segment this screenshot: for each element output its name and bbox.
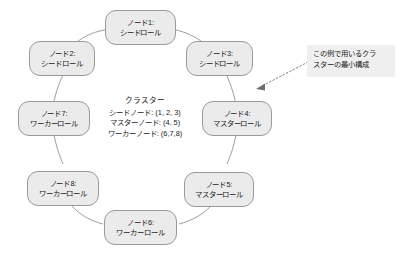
cluster-summary-master-line: マスターノード: (4, 5) [90, 118, 200, 129]
node-node5-role: マスターロール [195, 190, 244, 200]
cluster-summary: クラスター シードノード: (1, 2, 3) マスターノード: (4, 5) … [90, 95, 200, 139]
node-node7-role: ワーカーロール [30, 119, 79, 129]
cluster-summary-title: クラスター [90, 95, 200, 106]
node-node1[interactable]: ノード1: シードロール [105, 10, 176, 45]
node-node6[interactable]: ノード6: ワーカーロール [104, 210, 177, 245]
node-node2[interactable]: ノード2: シードロール [29, 41, 95, 76]
cluster-summary-worker-line: ワーカーノード: (6,7,8) [90, 129, 200, 140]
node-node2-role: シードロール [41, 59, 83, 69]
node-node3-role: シードロール [199, 59, 241, 69]
node-node5[interactable]: ノード5: マスターロール [184, 172, 254, 207]
edge-node2-node7 [54, 75, 63, 101]
node-node1-name: ノード1: [127, 18, 154, 28]
node-node4-role: マスターロール [213, 119, 262, 129]
edge-node3-node4 [227, 76, 236, 104]
node-node2-name: ノード2: [49, 49, 76, 59]
node-node4[interactable]: ノード4: マスターロール [202, 101, 272, 136]
edge-node5-node6 [179, 207, 210, 224]
callout-line-1: この例で用いるクラ [313, 49, 390, 60]
node-node1-role: シードロール [120, 28, 162, 38]
node-node7[interactable]: ノード7: ワーカーロール [18, 101, 90, 136]
node-node8-name: ノード8: [50, 179, 77, 189]
edge-node8-node6 [72, 206, 103, 224]
node-node8-role: ワーカーロール [39, 189, 88, 199]
diagram-canvas: ノード1: シードロール ノード2: シードロール ノード3: シードロール ノ… [0, 0, 401, 262]
edge-node7-node8 [54, 135, 63, 164]
cluster-summary-seed-line: シードノード: (1, 2, 3) [90, 108, 200, 119]
edge-node4-node5 [227, 135, 236, 164]
node-node8[interactable]: ノード8: ワーカーロール [27, 171, 99, 206]
callout-box: この例で用いるクラ スターの最小構成 [307, 45, 395, 77]
node-node4-name: ノード4: [224, 109, 251, 119]
node-node3-name: ノード3: [206, 49, 233, 59]
node-node5-name: ノード5: [206, 180, 233, 190]
node-node6-role: ワーカーロール [116, 228, 165, 238]
node-node3[interactable]: ノード3: シードロール [186, 41, 253, 76]
callout-arrow [256, 62, 308, 91]
node-node6-name: ノード6: [127, 218, 154, 228]
callout-line-2: スターの最小構成 [313, 60, 390, 71]
node-node7-name: ノード7: [41, 109, 68, 119]
